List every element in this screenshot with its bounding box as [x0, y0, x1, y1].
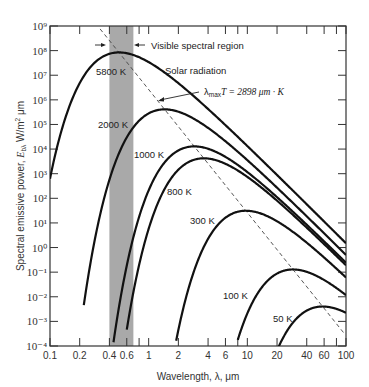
x-tick-label: 0.4 [102, 350, 116, 361]
curve-label-5800k: 5800 K [96, 66, 127, 77]
curve-label-1000k: 1000 K [134, 149, 165, 160]
curve-800k [127, 158, 346, 329]
y-tick-label: 10⁷ [32, 69, 47, 81]
y-tick-label: 10⁵ [32, 118, 47, 130]
x-axis-title: Wavelength, λ, μm [157, 371, 240, 382]
curve-label-50k: 50 K [273, 313, 293, 324]
svg-text:λmaxT = 2898 μm · K: λmaxT = 2898 μm · K [204, 86, 284, 98]
x-tick-label: 60 [319, 350, 331, 361]
curve-label-2000k: 2000 K [98, 119, 129, 130]
solar-radiation-label: Solar radiation [165, 65, 226, 76]
x-tick-label: 20 [271, 350, 283, 361]
blackbody-spectral-chart: 0.10.20.40.612461020406010010⁻⁴10⁻³10⁻²1… [0, 0, 369, 387]
x-tick-label: 0.6 [120, 350, 134, 361]
curve-label-300k: 300 K [190, 215, 215, 226]
y-tick-label: 10⁻² [27, 291, 48, 303]
x-tick-label: 40 [301, 350, 313, 361]
planck-curves [50, 52, 346, 346]
y-tick-label: 10² [33, 192, 48, 204]
curve-1000k [113, 146, 346, 342]
curve-100k [238, 269, 346, 339]
x-tick-label: 100 [338, 350, 355, 361]
y-tick-label: 10⁻⁴ [26, 340, 47, 352]
x-tick-label: 2 [176, 350, 182, 361]
y-tick-label: 10⁻³ [27, 315, 48, 327]
x-tick-label: 0.2 [73, 350, 87, 361]
x-tick-label: 4 [205, 350, 211, 361]
y-tick-label: 10⁸ [32, 45, 47, 57]
x-tick-label: 10 [242, 350, 254, 361]
y-tick-label: 10¹ [33, 217, 47, 229]
y-tick-label: 10⁶ [32, 94, 47, 106]
y-tick-label: 10⁰ [32, 242, 48, 254]
y-tick-label: 10³ [33, 168, 48, 180]
curve-label-100k: 100 K [223, 290, 248, 301]
x-tick-label: 1 [146, 350, 152, 361]
wien-annotation: λmaxT = 2898 μm · K [158, 86, 284, 102]
y-tick-label: 10⁹ [32, 20, 47, 32]
x-tick-label: 6 [223, 350, 229, 361]
y-tick-label: 10⁻¹ [27, 266, 47, 278]
visible-region-label: Visible spectral region [151, 40, 244, 51]
y-tick-label: 10⁴ [32, 143, 47, 155]
y-axis-title: Spectral emissive power, Ebλ W/m2 μm [14, 101, 27, 271]
curve-label-800k: 800 K [167, 186, 192, 197]
